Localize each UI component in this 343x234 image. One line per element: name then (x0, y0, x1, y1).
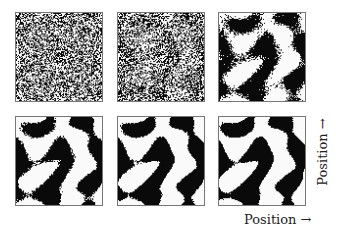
panel-6-labyrinth-final (218, 116, 306, 206)
panel-2-faint-clusters (117, 12, 205, 102)
panel-5-labyrinth (117, 116, 205, 206)
panel-4-forming-stripes (15, 116, 103, 206)
panel-3-emerging-blobs (218, 12, 306, 102)
y-axis-label: Position → (315, 118, 330, 185)
panel-1-random-noise (15, 12, 103, 102)
x-axis-label: Position → (244, 212, 311, 227)
